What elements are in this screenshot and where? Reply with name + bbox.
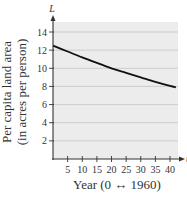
x-tick-label: 10 — [77, 164, 87, 175]
y-tick-label: 4 — [42, 117, 47, 128]
x-axis-arrow-icon — [179, 157, 185, 162]
x-tick-label: 40 — [165, 164, 175, 175]
x-variable-label: t — [186, 153, 187, 164]
x-tick-label: 30 — [136, 164, 146, 175]
y-tick-label: 6 — [42, 99, 47, 110]
y-ticks: 2468101214 — [37, 27, 54, 147]
x-axis-title: Year (0 ↔ 1960) — [73, 177, 161, 192]
y-tick-label: 12 — [37, 45, 47, 56]
x-tick-label: 5 — [65, 164, 70, 175]
y-axis-arrow-icon — [51, 15, 56, 21]
y-axis-title-line-2: (in acres per person) — [14, 39, 29, 145]
x-tick-label: 15 — [92, 164, 102, 175]
plot-background — [53, 22, 178, 159]
x-tick-label: 20 — [107, 164, 117, 175]
x-tick-label: 25 — [121, 164, 131, 175]
y-tick-label: 2 — [42, 135, 47, 146]
y-tick-label: 8 — [42, 81, 47, 92]
y-variable-label: L — [48, 3, 55, 14]
x-tick-label: 35 — [150, 164, 160, 175]
y-axis-title-line-1: Per capita land area — [0, 41, 14, 143]
y-tick-label: 10 — [37, 63, 47, 74]
chart: 510152025303540 2468101214 L t Year (0 ↔… — [0, 0, 187, 201]
y-tick-label: 14 — [37, 27, 47, 38]
